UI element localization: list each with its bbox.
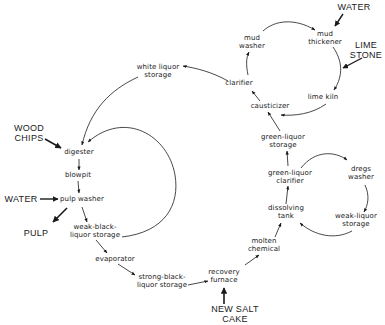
output-pulp: PULP: [24, 228, 49, 238]
arrow-recovery-molten: [245, 255, 259, 265]
node-mud-washer: mud washer: [239, 34, 265, 50]
node-green-liquor-clarifier: green-liquor clarifier: [268, 169, 312, 185]
input-new-salt-cake: NEW SALT CAKE: [211, 304, 259, 324]
input-water-top: WATER: [338, 2, 371, 12]
node-white-liquor-storage: white liquor storage: [137, 63, 180, 79]
arrow-pulpwasher-weakblack: [82, 207, 87, 222]
node-recovery-furnace: recovery furnace: [208, 268, 239, 284]
arrow-water-thickener: [335, 14, 343, 26]
node-dregs-washer: dregs washer: [348, 165, 374, 181]
node-pulp-washer: pulp washer: [60, 195, 104, 203]
arrow-molten-dissolving: [275, 223, 281, 237]
arrow-whiteliquor-digester: [82, 77, 138, 145]
input-wood-chips: WOOD CHIPS: [14, 123, 44, 143]
node-green-liquor-storage: green-liquor storage: [261, 133, 305, 149]
node-evaporator: evaporator: [95, 255, 135, 263]
node-dissolving-tank: dissolving tank: [268, 204, 304, 220]
arrow-weakblack-digester: [88, 127, 176, 237]
flow-arrows: [0, 0, 385, 325]
node-weak-black-liquor-storage: weak-black- liquor storage: [70, 223, 120, 239]
arrow-thickener-limekiln: [333, 47, 341, 90]
node-digester: digester: [64, 148, 94, 156]
node-mud-thickener: mud thickener: [308, 30, 342, 46]
arrow-greenstor-caust: [268, 112, 280, 131]
node-strong-black-liquor-storage: strong-black- liquor storage: [137, 273, 187, 289]
input-lime-stone: LIME STONE: [350, 40, 382, 60]
node-weak-liquor-storage: weak-liquor storage: [335, 212, 377, 228]
arrow-woodchips-digester: [45, 139, 61, 148]
arrow-evaporator-strongblack: [118, 264, 135, 275]
arrow-dissolving-greenclar: [286, 186, 288, 204]
arrow-clarifier-whiteliquor: [183, 66, 228, 81]
arrow-blowpit-pulpwasher: [78, 181, 79, 193]
node-molten-chemical: molten chemical: [248, 237, 280, 253]
arrow-pulpwasher-pulp: [53, 208, 67, 222]
arrow-dregs-weakliquor: [364, 185, 368, 212]
node-blowpit: blowpit: [65, 171, 91, 179]
arrow-strongblack-recovery: [188, 281, 208, 285]
arrow-mudwasher-thickener: [263, 22, 315, 31]
node-lime-kiln: lime kiln: [308, 93, 339, 101]
input-water-left: WATER: [5, 194, 38, 204]
arrow-clarifier-mudwasher: [247, 52, 249, 75]
arrow-weakblack-evaporator: [96, 240, 107, 253]
node-clarifier: clarifier: [225, 79, 252, 87]
node-causticizer: causticizer: [251, 102, 290, 110]
arrow-greenclar-dregs: [301, 154, 347, 168]
arrow-greenclar-greenstor: [287, 151, 288, 166]
arrow-caust-clarifier: [252, 91, 260, 101]
